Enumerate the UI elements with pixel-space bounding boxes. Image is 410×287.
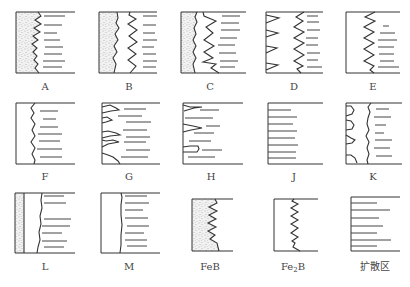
label-f: F xyxy=(42,171,49,182)
panel-e: E xyxy=(346,12,400,92)
panel-m: M xyxy=(101,193,160,272)
label-fe2b: Fe2B xyxy=(281,261,305,274)
legend-feb: FeB xyxy=(192,199,233,272)
label-h: H xyxy=(207,171,216,182)
legend-diffusion-zone: 扩散区 xyxy=(351,197,400,272)
boride-morphology-diagram: A B C xyxy=(0,0,410,287)
label-d: D xyxy=(290,81,298,92)
label-k: K xyxy=(369,171,377,182)
panel-b: B xyxy=(99,12,157,92)
panel-j: J xyxy=(268,103,323,182)
label-j: J xyxy=(291,171,296,182)
label-diffusion-zone: 扩散区 xyxy=(360,260,390,272)
legend-fe2b: Fe2B xyxy=(274,199,318,274)
panel-k: K xyxy=(346,103,402,182)
label-b: B xyxy=(125,81,132,92)
label-m: M xyxy=(124,261,134,272)
label-a: A xyxy=(40,81,49,92)
panel-h: H xyxy=(183,103,243,182)
panel-f: F xyxy=(16,103,75,182)
label-g: G xyxy=(125,171,133,182)
panel-g: G xyxy=(102,103,160,182)
label-e: E xyxy=(369,81,376,92)
panel-a: A xyxy=(16,12,75,92)
panel-l: L xyxy=(15,193,75,272)
label-c: C xyxy=(206,81,214,92)
label-feb: FeB xyxy=(200,261,220,272)
panel-c: C xyxy=(181,12,246,92)
panel-d: D xyxy=(266,12,323,92)
label-l: L xyxy=(42,261,49,272)
